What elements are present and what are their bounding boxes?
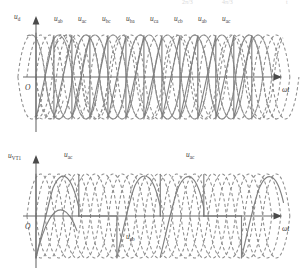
uvt1-panel: uVT1 O ωt uac uac uab [8,150,290,268]
ud-segment-labels: uab uac ubc uba uca ucb uab uac [54,14,231,24]
svg-text:uac: uac [78,14,87,24]
svg-text:ucb: ucb [174,14,183,24]
ud-panel: ud O ωt uab uac ubc uba uca ucb uab uac [14,12,299,132]
svg-text:uba: uba [126,14,135,24]
uvt1-y-axis-arrow [33,155,40,164]
svg-text:ubc: ubc [102,14,111,24]
ud-y-axis-arrow [33,16,40,25]
svg-text:uab: uab [54,14,63,24]
svg-text:uac: uac [64,150,73,160]
uvt1-x-axis-label: ωt [282,224,290,233]
ud-x-axis-label: ωt [282,85,290,94]
svg-text:uac: uac [222,14,231,24]
svg-text:uac: uac [186,150,195,160]
waveform-figure: ud O ωt uab uac ubc uba uca ucb uab uac [0,0,304,278]
ud-origin-label: O [25,83,31,92]
svg-text:uca: uca [150,14,159,24]
svg-text:uab: uab [198,14,207,24]
ud-y-axis-label: ud [14,12,21,22]
uvt1-origin-label: O [25,222,31,231]
uvt1-y-axis-label: uVT1 [8,151,22,161]
